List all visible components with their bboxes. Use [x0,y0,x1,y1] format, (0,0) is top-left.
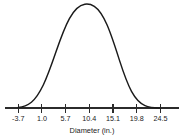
tick-label: -3.7 [12,114,24,123]
normal-curve-figure: -3.7 1.0 5.7 10.4 15.1 19.8 24.5 Diamete… [0,0,184,140]
tick-label: 10.4 [82,114,96,123]
bell-curve-chart: -3.7 1.0 5.7 10.4 15.1 19.8 24.5 Diamete… [0,0,184,140]
tick-label: 1.0 [37,114,47,123]
x-axis-tick-labels: -3.7 1.0 5.7 10.4 15.1 19.8 24.5 [12,114,167,123]
normal-density-curve [18,4,160,108]
x-axis-title: Diameter (in.) [70,126,115,135]
tick-label: 15.1 [106,114,120,123]
tick-label: 5.7 [61,114,71,123]
tick-label: 19.8 [130,114,144,123]
tick-label: 24.5 [153,114,167,123]
